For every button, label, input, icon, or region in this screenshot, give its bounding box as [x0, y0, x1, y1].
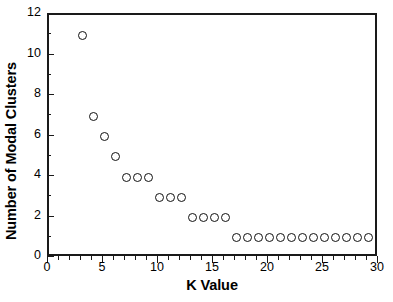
x-tick [69, 256, 70, 260]
y-tick [47, 155, 51, 156]
x-tick [91, 256, 92, 260]
data-point [133, 173, 142, 182]
x-tick [135, 256, 136, 260]
x-tick [311, 256, 312, 260]
y-tick [47, 33, 51, 34]
data-point [232, 233, 241, 242]
x-tick [355, 256, 356, 260]
y-tick [47, 74, 51, 75]
data-point [210, 213, 219, 222]
x-tick [278, 256, 279, 260]
y-tick [47, 236, 51, 237]
x-tick-label-text: 25 [315, 260, 329, 274]
y-tick [47, 195, 51, 196]
x-tick [80, 256, 81, 260]
y-tick-label-text: 6 [34, 127, 41, 141]
data-point [331, 233, 340, 242]
y-tick-label-text: 0 [34, 248, 41, 262]
y-tick-label-text: 10 [27, 46, 41, 60]
data-point [353, 233, 362, 242]
x-tick-label-text: 15 [205, 260, 219, 274]
data-point [122, 173, 131, 182]
x-tick [366, 256, 367, 260]
x-tick [245, 256, 246, 260]
data-point [276, 233, 285, 242]
y-axis-title: Number of Modal Clusters [0, 0, 22, 302]
data-point [89, 112, 98, 121]
y-tick [47, 94, 54, 95]
y-tick [47, 256, 54, 257]
plot-frame [47, 13, 377, 256]
y-tick-label-text: 8 [34, 86, 41, 100]
x-tick-label-text: 0 [44, 260, 51, 274]
data-point [188, 213, 197, 222]
x-tick [289, 256, 290, 260]
y-tick [47, 13, 54, 14]
x-tick [179, 256, 180, 260]
data-point [342, 233, 351, 242]
data-point [78, 31, 87, 40]
x-tick [146, 256, 147, 260]
x-tick [256, 256, 257, 260]
x-tick [113, 256, 114, 260]
y-tick-label-text: 2 [34, 208, 41, 222]
data-point [243, 233, 252, 242]
data-point [320, 233, 329, 242]
data-point [177, 193, 186, 202]
plot-area [49, 15, 375, 254]
data-point [166, 193, 175, 202]
data-point [287, 233, 296, 242]
y-tick [47, 216, 54, 217]
x-tick [168, 256, 169, 260]
x-axis-title: K Value [47, 277, 377, 293]
x-tick [300, 256, 301, 260]
scatter-chart-figure: Number of Modal Clusters K Value 0246810… [0, 0, 393, 302]
data-point [265, 233, 274, 242]
y-tick [47, 54, 54, 55]
y-tick [47, 114, 51, 115]
x-tick [344, 256, 345, 260]
data-point [100, 132, 109, 141]
data-point [155, 193, 164, 202]
x-tick [223, 256, 224, 260]
y-tick-label-text: 12 [27, 5, 41, 19]
x-tick [58, 256, 59, 260]
data-point [298, 233, 307, 242]
data-point [254, 233, 263, 242]
x-tick [124, 256, 125, 260]
y-tick-label-text: 4 [34, 167, 41, 181]
data-point [221, 213, 230, 222]
x-tick [190, 256, 191, 260]
x-tick-label-text: 5 [99, 260, 106, 274]
x-tick [333, 256, 334, 260]
x-tick [234, 256, 235, 260]
data-point [364, 233, 373, 242]
x-tick [201, 256, 202, 260]
data-point [309, 233, 318, 242]
x-tick-label-text: 20 [260, 260, 274, 274]
x-tick-label-text: 10 [150, 260, 164, 274]
y-tick [47, 135, 54, 136]
data-point [199, 213, 208, 222]
y-tick [47, 175, 54, 176]
data-point [144, 173, 153, 182]
data-point [111, 152, 120, 161]
x-tick-label-text: 30 [370, 260, 384, 274]
